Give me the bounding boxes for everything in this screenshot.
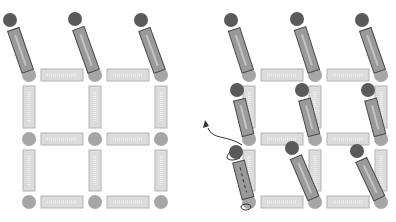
tilted-rod <box>73 26 100 73</box>
lattice-node <box>154 132 168 146</box>
tilted-rod <box>228 28 253 73</box>
dark-ball <box>295 83 309 97</box>
dark-ball <box>285 141 299 155</box>
dark-ball <box>3 13 17 27</box>
lattice-node <box>88 132 102 146</box>
rotation-arrow <box>208 128 242 145</box>
dark-ball <box>361 83 375 97</box>
tilted-rod <box>294 27 319 73</box>
lattice-node <box>88 195 102 209</box>
dark-ball <box>230 83 244 97</box>
figure-canvas <box>0 0 396 222</box>
dark-ball <box>224 13 238 27</box>
dark-ball <box>355 13 369 27</box>
tilted-rod <box>8 27 34 73</box>
lattice-figure <box>0 0 396 222</box>
lattice-node <box>154 195 168 209</box>
dark-ball <box>68 12 82 26</box>
lattice-node <box>22 195 36 209</box>
tilted-rod <box>139 27 165 73</box>
dark-ball <box>290 12 304 26</box>
dark-ball <box>229 145 243 159</box>
arrow-head-icon <box>203 120 209 128</box>
dark-ball <box>134 13 148 27</box>
lattice-node <box>22 132 36 146</box>
dark-ball <box>350 144 364 158</box>
tilted-rod <box>360 27 386 73</box>
